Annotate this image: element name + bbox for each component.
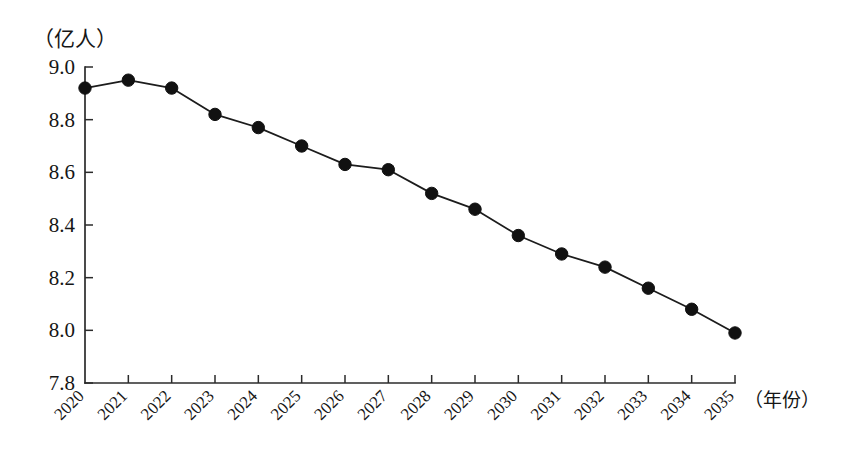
data-point-marker <box>252 121 264 133</box>
x-axis-group: 2020202120222023202420252026202720282029… <box>50 375 737 424</box>
data-point-marker <box>209 108 221 120</box>
data-point-marker <box>642 282 654 294</box>
x-tick-label: 2035 <box>700 386 737 423</box>
chart-container: （亿人） （年份） 9.08.88.68.48.28.07.8 20202021… <box>0 0 847 460</box>
data-point-marker <box>599 261 611 273</box>
x-tick-label: 2022 <box>137 386 174 423</box>
x-tick-label: 2029 <box>440 386 477 423</box>
y-tick-label: 8.0 <box>49 318 75 342</box>
data-point-marker <box>165 82 177 94</box>
y-tick-label: 8.8 <box>49 108 75 132</box>
y-tick-labels: 9.08.88.68.48.28.07.8 <box>49 55 76 395</box>
x-tick-label: 2027 <box>354 386 392 424</box>
x-tick-label: 2024 <box>224 386 262 424</box>
data-point-marker <box>79 82 91 94</box>
line-chart-plot: 9.08.88.68.48.28.07.8 202020212022202320… <box>0 0 847 460</box>
x-tick-label: 2021 <box>94 386 131 423</box>
x-tick-label: 2031 <box>527 386 564 423</box>
x-tick-label: 2034 <box>657 386 695 424</box>
data-series-group <box>79 74 741 339</box>
x-tick-marks <box>128 375 735 383</box>
data-point-marker <box>729 327 741 339</box>
y-tick-label: 8.2 <box>49 266 75 290</box>
data-point-marker <box>425 187 437 199</box>
series-data-points <box>79 74 741 339</box>
series-line-labor-population <box>85 80 735 333</box>
y-tick-label: 9.0 <box>49 55 75 79</box>
y-tick-label: 8.6 <box>49 160 75 184</box>
data-point-marker <box>555 248 567 260</box>
data-point-marker <box>295 140 307 152</box>
x-tick-label: 2026 <box>310 386 347 423</box>
data-point-marker <box>685 303 697 315</box>
x-tick-label: 2030 <box>484 386 521 423</box>
x-tick-label: 2033 <box>614 386 651 423</box>
x-tick-labels: 2020202120222023202420252026202720282029… <box>50 386 737 424</box>
data-point-marker <box>512 229 524 241</box>
data-point-marker <box>382 164 394 176</box>
data-point-marker <box>339 158 351 170</box>
y-axis-group: 9.08.88.68.48.28.07.8 <box>49 55 93 395</box>
x-tick-label: 2025 <box>267 386 304 423</box>
data-point-marker <box>469 203 481 215</box>
data-point-marker <box>122 74 134 86</box>
x-tick-label: 2032 <box>570 386 607 423</box>
y-tick-label: 8.4 <box>49 213 76 237</box>
x-tick-label: 2028 <box>397 386 434 423</box>
y-tick-marks <box>85 67 93 383</box>
x-tick-label: 2023 <box>180 386 217 423</box>
